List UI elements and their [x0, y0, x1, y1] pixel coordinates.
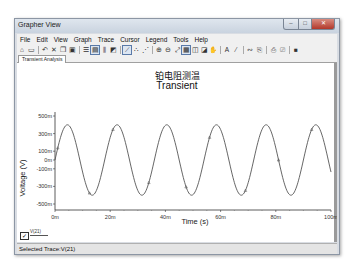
- menu-graph[interactable]: Graph: [71, 36, 95, 43]
- x-tick-label: 0m: [51, 214, 59, 220]
- toolbar-separator: [120, 46, 121, 54]
- y-tick-label: -300m: [36, 183, 52, 189]
- menu-legend[interactable]: Legend: [143, 36, 171, 43]
- grid-icon[interactable]: ☰: [82, 46, 90, 54]
- x-tick-label: 100m: [324, 214, 337, 220]
- text-icon[interactable]: A: [223, 46, 231, 54]
- zoom-in-icon[interactable]: ⊕: [155, 46, 163, 54]
- overlay-icon[interactable]: ◩: [109, 46, 117, 54]
- cut-icon[interactable]: ✕: [50, 46, 58, 54]
- grapher-window: Grapher View – □ ✕ File Edit View Graph …: [14, 18, 340, 255]
- paste-icon[interactable]: ▣: [68, 46, 76, 54]
- waveform-plot[interactable]: 500m300m100m0m-100m-300m-500m0m20m40m60m…: [17, 63, 337, 242]
- status-bar: Selected Trace:V(21): [17, 243, 337, 254]
- y-tick-label: 300m: [38, 131, 52, 137]
- x-tick-label: 80m: [270, 214, 281, 220]
- x-tick-label: 20m: [105, 214, 116, 220]
- close-button[interactable]: ✕: [312, 19, 335, 30]
- pan-icon[interactable]: ✋: [209, 46, 217, 54]
- menu-help[interactable]: Help: [192, 36, 211, 43]
- title-bar[interactable]: Grapher View – □ ✕: [15, 19, 339, 33]
- menu-cursor[interactable]: Cursor: [117, 36, 143, 43]
- zoom-x-icon[interactable]: ◫: [191, 46, 199, 54]
- window-controls: – □ ✕: [283, 19, 335, 29]
- toolbar-separator: [38, 46, 39, 54]
- trace-markers: [56, 128, 313, 194]
- y-tick-label: 500m: [38, 113, 52, 119]
- window-title: Grapher View: [18, 21, 61, 28]
- print-icon[interactable]: ⎙: [269, 46, 277, 54]
- trace-v21[interactable]: [55, 125, 331, 195]
- toolbar: ⌂▭↶✕❐▣☰▤⫼◩⟋∴⋰⊕⊖⤢▦◫◪✋A⁄∾⎘⎙⎚■: [17, 44, 337, 55]
- cursor-icon[interactable]: ⁄: [232, 46, 240, 54]
- bars-icon[interactable]: ⫼: [100, 46, 108, 54]
- toolbar-separator: [243, 46, 244, 54]
- legend-checkbox[interactable]: ✓: [20, 232, 29, 240]
- scatter-icon[interactable]: ∴: [132, 46, 140, 54]
- menu-view[interactable]: View: [51, 36, 71, 43]
- minimize-button[interactable]: –: [283, 19, 299, 30]
- graph-icon[interactable]: ▤: [91, 46, 99, 54]
- tab-transient-analysis[interactable]: Transient Analysis: [18, 55, 66, 63]
- print-preview-icon[interactable]: ⎚: [278, 46, 286, 54]
- menu-tools[interactable]: Tools: [170, 36, 191, 43]
- measure-icon[interactable]: ∾: [246, 46, 254, 54]
- properties-icon[interactable]: ■: [292, 46, 300, 54]
- y-tick-label: 100m: [38, 148, 52, 154]
- x-axis-label: Time (s): [181, 217, 209, 226]
- toolbar-separator: [152, 46, 153, 54]
- y-tick-label: -500m: [36, 201, 52, 207]
- menu-bar: File Edit View Graph Trace Cursor Legend…: [17, 34, 337, 44]
- undo-icon[interactable]: ↶: [41, 46, 49, 54]
- toolbar-separator: [79, 46, 80, 54]
- legend-line-sample: [30, 235, 48, 236]
- trace-icon[interactable]: ⟋: [123, 46, 131, 54]
- toolbar-separator: [289, 46, 290, 54]
- toolbar-separator: [266, 46, 267, 54]
- y-tick-label: 0m: [44, 157, 52, 163]
- menu-file[interactable]: File: [17, 36, 33, 43]
- zoom-area-icon[interactable]: ▦: [182, 46, 190, 54]
- y-tick-label: -100m: [36, 166, 52, 172]
- export-icon[interactable]: ⎘: [255, 46, 263, 54]
- tab-strip: Transient Analysis: [17, 55, 337, 63]
- zoom-fit-icon[interactable]: ⤢: [173, 46, 181, 54]
- legend-label[interactable]: V(21): [30, 229, 41, 234]
- x-tick-label: 60m: [215, 214, 226, 220]
- x-tick-label: 40m: [160, 214, 171, 220]
- zoom-out-icon[interactable]: ⊖: [164, 46, 172, 54]
- zoom-y-icon[interactable]: ◪: [200, 46, 208, 54]
- maximize-button[interactable]: □: [299, 19, 312, 30]
- plot-panel: 铂电阻测温 Transient 500m300m100m0m-100m-300m…: [17, 63, 337, 242]
- menu-edit[interactable]: Edit: [33, 36, 50, 43]
- y-axis-label: Voltage (V): [18, 159, 27, 197]
- toolbar-separator: [220, 46, 221, 54]
- status-text: Selected Trace:V(21): [19, 246, 75, 252]
- menu-trace[interactable]: Trace: [95, 36, 117, 43]
- save-icon[interactable]: ▭: [27, 46, 35, 54]
- copy-icon[interactable]: ❐: [59, 46, 67, 54]
- open-icon[interactable]: ⌂: [18, 46, 26, 54]
- peaks-icon[interactable]: ⋰: [141, 46, 149, 54]
